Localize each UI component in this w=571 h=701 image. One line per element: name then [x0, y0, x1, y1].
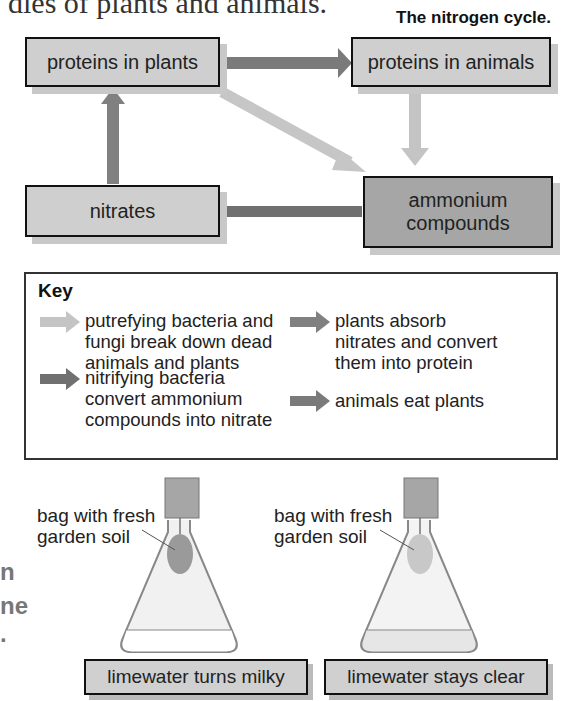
- key-line: nitrifying bacteria: [85, 367, 272, 388]
- arrow-animals-to-ammonium: [401, 88, 429, 166]
- arrow-plants-to-ammonium: [222, 92, 366, 172]
- result-box-clear: limewater stays clear: [324, 659, 548, 695]
- key-line: putrefying bacteria and: [85, 310, 273, 331]
- key-item-plants-absorb: plants absorb nitrates and convert them …: [335, 310, 497, 373]
- arrow-plants-to-animals: [222, 48, 352, 78]
- key-line: convert ammonium: [85, 388, 272, 409]
- key-item-nitrifying: nitrifying bacteria convert ammonium com…: [85, 367, 272, 430]
- key-title: Key: [38, 280, 73, 302]
- flask-1-label: bag with fresh garden soil: [37, 505, 155, 547]
- flasks-illustration: [0, 470, 571, 670]
- key-item-putrefying: putrefying bacteria and fungi break down…: [85, 310, 273, 373]
- node-ammonium-compounds: ammonium compounds: [363, 176, 553, 248]
- key-arrow-nitrifying-icon: [40, 368, 82, 390]
- key-line: compounds into nitrate: [85, 409, 272, 430]
- key-legend: Key putrefying bacteria and fungi break …: [24, 272, 558, 460]
- arrow-ammonium-to-nitrates: [207, 196, 362, 226]
- key-line: fungi break down dead: [85, 331, 273, 352]
- node-nitrates: nitrates: [25, 185, 220, 237]
- arrow-nitrates-to-plants: [101, 88, 125, 184]
- label-line: bag with fresh: [274, 505, 392, 526]
- key-line: plants absorb: [335, 310, 497, 331]
- node-proteins-in-plants: proteins in plants: [25, 37, 220, 87]
- node-proteins-in-animals: proteins in animals: [351, 37, 551, 87]
- key-line: nitrates and convert: [335, 331, 497, 352]
- ammonium-label: ammonium compounds: [398, 189, 518, 235]
- key-item-animals-eat: animals eat plants: [335, 390, 484, 411]
- flask-2-label: bag with fresh garden soil: [274, 505, 392, 547]
- key-arrow-animals-eat-icon: [290, 390, 332, 412]
- result-box-milky: limewater turns milky: [84, 659, 308, 695]
- label-line: garden soil: [274, 526, 392, 547]
- label-line: garden soil: [37, 526, 155, 547]
- key-arrow-putrefying-icon: [40, 311, 82, 333]
- label-line: bag with fresh: [37, 505, 155, 526]
- key-line: them into protein: [335, 352, 497, 373]
- key-arrow-plants-absorb-icon: [290, 311, 332, 333]
